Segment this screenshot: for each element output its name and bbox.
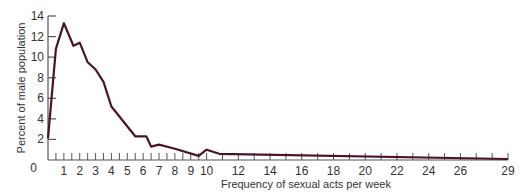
- x-tick-label: 4: [108, 164, 115, 178]
- x-tick-label: 1: [61, 164, 68, 178]
- x-tick-label: 22: [390, 164, 404, 178]
- x-tick-label: 9: [187, 164, 194, 178]
- x-tick-label: 12: [232, 164, 246, 178]
- y-axis-title: Percent of male population: [15, 23, 27, 154]
- y-tick-label: 2: [37, 132, 44, 146]
- x-axis: 12345678910121416182022242629: [48, 153, 515, 178]
- x-tick-label: 8: [172, 164, 179, 178]
- y-tick-label: 10: [31, 50, 45, 64]
- x-tick-label: 18: [327, 164, 341, 178]
- y-tick-label: 8: [37, 71, 44, 85]
- y-tick-label: 0: [30, 161, 37, 175]
- x-tick-label: 14: [263, 164, 277, 178]
- x-axis-title: Frequency of sexual acts per week: [221, 178, 391, 190]
- x-tick-label: 24: [422, 164, 436, 178]
- x-tick-label: 26: [454, 164, 468, 178]
- x-tick-label: 2: [76, 164, 83, 178]
- x-tick-label: 3: [92, 164, 99, 178]
- x-tick-label: 5: [124, 164, 131, 178]
- data-line: [48, 23, 508, 159]
- x-tick-label: 20: [359, 164, 373, 178]
- y-tick-label: 14: [31, 9, 45, 23]
- plot-area: [48, 23, 508, 159]
- x-tick-label: 7: [156, 164, 163, 178]
- x-tick-label: 10: [200, 164, 214, 178]
- y-tick-label: 6: [37, 91, 44, 105]
- x-tick-label: 6: [140, 164, 147, 178]
- x-tick-label: 16: [295, 164, 309, 178]
- line-chart: 02468101214 1234567891012141618202224262…: [0, 0, 527, 195]
- y-tick-label: 12: [31, 30, 45, 44]
- x-tick-label: 29: [501, 164, 515, 178]
- y-tick-label: 4: [37, 112, 44, 126]
